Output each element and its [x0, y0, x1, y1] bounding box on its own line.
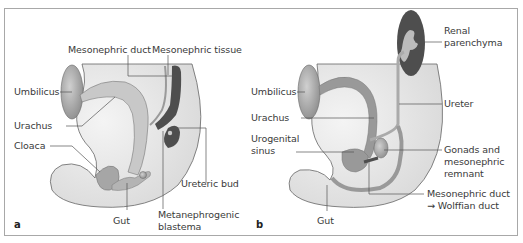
- label-blastema-a: blastema: [158, 221, 201, 233]
- panel-b-illustration: [289, 10, 442, 207]
- label-umbilicus-a: Umbilicus: [14, 86, 59, 98]
- gonad-b: [374, 138, 388, 158]
- panel-a-illustration: [50, 64, 200, 207]
- label-wolffian-duct-b: → Wolffian duct: [427, 200, 499, 212]
- ureteric-bud-a: [168, 131, 172, 135]
- label-ureter-b: Ureter: [444, 98, 473, 110]
- label-remnant-b: remnant: [444, 168, 484, 180]
- label-mesonephric-b: mesonephric: [444, 156, 504, 168]
- panel-letter-a: a: [14, 219, 21, 230]
- label-cloaca-a: Cloaca: [14, 140, 45, 152]
- label-gonads-b: Gonads and: [444, 144, 500, 156]
- label-mesonephric-tissue-a: Mesonephric tissue: [152, 44, 242, 56]
- label-metanephrogenic-a: Metanephrogenic: [158, 209, 239, 221]
- label-umbilicus-b: Umbilicus: [251, 86, 296, 98]
- label-mesonephric-duct-b: Mesonephric duct: [427, 188, 510, 200]
- label-sinus-b: sinus: [251, 145, 275, 157]
- label-renal-b: Renal: [444, 25, 470, 37]
- label-mesonephric-duct-a: Mesonephric duct: [68, 44, 151, 56]
- label-gut-a: Gut: [113, 215, 130, 227]
- label-urogenital-b: Urogenital: [251, 133, 299, 145]
- label-parenchyma-b: parenchyma: [444, 37, 502, 49]
- label-gut-b: Gut: [317, 215, 334, 227]
- gut-bud-a: [140, 172, 147, 179]
- label-urachus-a: Urachus: [14, 120, 52, 132]
- panel-letter-b: b: [256, 219, 263, 230]
- label-ureteric-bud-a: Ureteric bud: [181, 178, 239, 190]
- label-urachus-b: Urachus: [251, 112, 289, 124]
